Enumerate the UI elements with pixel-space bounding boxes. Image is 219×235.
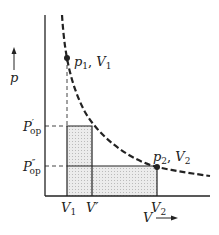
work-area-step1 [67, 126, 92, 196]
work-area-step2 [92, 166, 157, 196]
x-tick-v2: V2 [151, 200, 166, 217]
p1-label: p1, V1 [74, 54, 111, 71]
p2-label: p2, V2 [153, 149, 190, 166]
point-p2 [154, 164, 160, 170]
y-axis-label: p [10, 70, 19, 85]
point-p1 [64, 55, 70, 61]
pv-diagram: p V p1, V1 p2, V2 P′op P″op V1 V′ V2 [0, 0, 219, 235]
pop1-label: P′op [22, 117, 41, 136]
pop2-label: P″op [22, 157, 41, 176]
x-tick-vprime: V′ [86, 200, 98, 215]
v-arrow-icon [171, 216, 178, 221]
x-tick-v1: V1 [61, 200, 76, 217]
p-arrow-icon [12, 47, 17, 54]
